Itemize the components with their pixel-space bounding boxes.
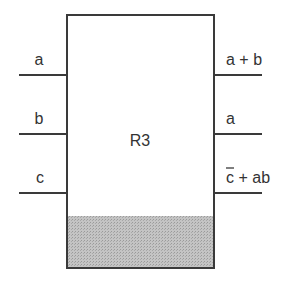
input-label-c: c xyxy=(36,169,44,186)
block-shaded-region xyxy=(67,216,214,268)
block-diagram: R3 a b c a + b a c + ab xyxy=(0,0,295,281)
output-label-cbar: c xyxy=(226,169,234,186)
output-label-a: a xyxy=(226,110,235,127)
output-label-cbar-plus-ab: c + ab xyxy=(226,169,270,186)
output-label-plus-ab: + ab xyxy=(234,169,270,186)
output-label-a-plus-b: a + b xyxy=(226,51,262,68)
input-label-b: b xyxy=(35,110,44,127)
input-label-a: a xyxy=(35,51,44,68)
block-name: R3 xyxy=(130,132,151,149)
